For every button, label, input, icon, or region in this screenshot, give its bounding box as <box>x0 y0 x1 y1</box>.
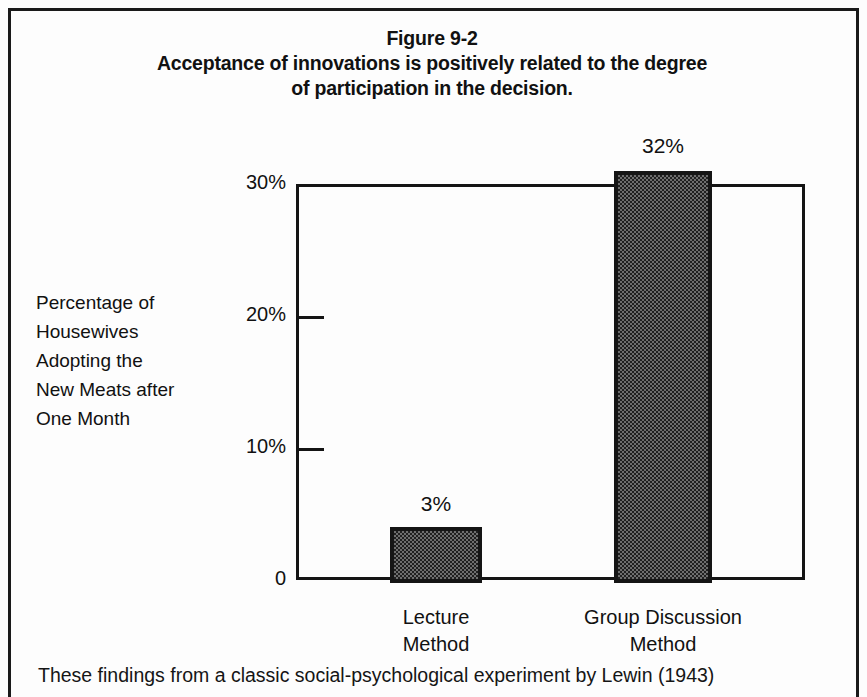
figure-title-line-2: of participation in the decision. <box>8 76 856 101</box>
figure-number: Figure 9-2 <box>8 26 856 51</box>
bar-lecture-method <box>390 527 482 583</box>
y-tick-mark-10 <box>296 448 324 451</box>
figure-title-line-1: Acceptance of innovations is positively … <box>8 51 856 76</box>
bar-value-lecture-method: 3% <box>386 492 486 516</box>
figure-title: Figure 9-2 Acceptance of innovations is … <box>8 26 856 101</box>
y-axis-title-line-3: Adopting the <box>36 346 251 375</box>
plot-area-frame <box>296 184 805 580</box>
figure-caption: These findings from a classic social-psy… <box>38 662 828 688</box>
x-category-label-group-discussion-method: Group Discussion Method <box>573 604 753 658</box>
x-category-label-lecture-method: Lecture Method <box>356 604 516 658</box>
y-axis-title-line-1: Percentage of <box>36 288 251 317</box>
y-axis-title: Percentage of Housewives Adopting the Ne… <box>36 288 251 433</box>
figure-container: Figure 9-2 Acceptance of innovations is … <box>0 0 867 697</box>
y-axis-title-line-4: New Meats after <box>36 375 251 404</box>
y-axis-title-line-2: Housewives <box>36 317 251 346</box>
bar-value-group-discussion-method: 32% <box>613 134 713 158</box>
y-tick-mark-20 <box>296 316 324 319</box>
y-axis-title-line-5: One Month <box>36 404 251 433</box>
bar-group-discussion-method <box>614 171 712 583</box>
